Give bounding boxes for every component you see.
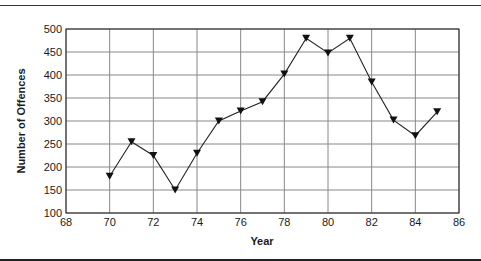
y-axis-label: Number of Offences xyxy=(15,68,27,173)
down-triangle-marker xyxy=(324,49,332,56)
x-tick-label: 68 xyxy=(60,216,72,228)
down-triangle-marker xyxy=(411,132,419,139)
y-tick-label: 450 xyxy=(44,46,62,58)
down-triangle-marker xyxy=(368,78,376,85)
x-axis-ticks: 68707274767880828486 xyxy=(60,216,465,228)
y-tick-label: 250 xyxy=(44,138,62,150)
x-tick-label: 74 xyxy=(191,216,203,228)
data-markers xyxy=(106,35,442,194)
down-triangle-marker xyxy=(237,107,245,114)
line-chart: 100150200250300350400450500 687072747678… xyxy=(0,0,481,261)
y-tick-label: 300 xyxy=(44,115,62,127)
y-tick-label: 400 xyxy=(44,69,62,81)
down-triangle-marker xyxy=(149,152,157,159)
x-tick-label: 80 xyxy=(322,216,334,228)
y-tick-label: 350 xyxy=(44,92,62,104)
down-triangle-marker xyxy=(259,98,267,105)
y-tick-label: 200 xyxy=(44,161,62,173)
x-axis-label: Year xyxy=(250,235,274,247)
x-tick-label: 70 xyxy=(104,216,116,228)
down-triangle-marker xyxy=(106,173,114,180)
y-tick-label: 500 xyxy=(44,23,62,35)
x-tick-label: 76 xyxy=(235,216,247,228)
grid-lines xyxy=(66,29,459,213)
x-tick-label: 72 xyxy=(147,216,159,228)
x-tick-label: 82 xyxy=(366,216,378,228)
y-axis-ticks: 100150200250300350400450500 xyxy=(44,23,62,219)
x-tick-label: 84 xyxy=(409,216,421,228)
y-tick-label: 150 xyxy=(44,184,62,196)
x-tick-label: 86 xyxy=(453,216,465,228)
x-tick-label: 78 xyxy=(278,216,290,228)
down-triangle-marker xyxy=(193,150,201,157)
down-triangle-marker xyxy=(280,71,288,78)
